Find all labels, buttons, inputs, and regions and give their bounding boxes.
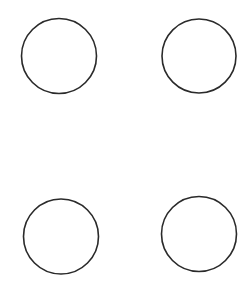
diagram-canvas: [0, 0, 252, 300]
background: [0, 0, 252, 300]
